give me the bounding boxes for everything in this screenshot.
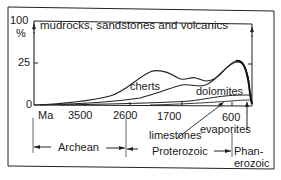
era-phanerozoic-line1: Phan- [234,146,263,157]
x-label-1700: 1700 [157,111,181,122]
label-cherts: cherts [130,81,160,92]
arrow-left-icon [34,145,40,149]
arrow-right-icon [225,149,231,153]
right-arrow-icon [250,27,254,32]
evaporites-arrow-icon [245,101,249,107]
left-arrow-icon [32,24,36,29]
x-unit-ma: Ma [38,110,53,121]
y-label-percent: % [16,28,26,39]
era-proterozoic: Proterozoic [152,146,208,157]
total-curve-edge [236,61,252,104]
arrow-left-icon [127,147,133,151]
x-label-3500: 3500 [68,110,92,121]
era-archean: Archean [58,142,99,153]
label-dolomites: dolomites [196,86,243,97]
y-label-100: 100 [10,15,28,26]
x-label-600: 600 [222,112,240,123]
label-mudrocks: mudrocks, sandstones and volcanics [40,20,228,31]
y-label-0: 0 [26,99,32,110]
label-limestones: limestones [149,130,202,141]
era-phanerozoic-line2: erozoic [234,158,269,169]
x-label-2600: 2600 [113,110,137,121]
y-label-25: 25 [18,57,30,68]
label-evaporites: evaporites [200,124,251,135]
arrow-right-icon [119,146,125,150]
